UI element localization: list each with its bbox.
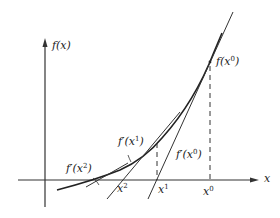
label-x2: x2 bbox=[117, 183, 128, 194]
x-axis-label: x bbox=[264, 173, 270, 184]
label-fp-x0: f′(x0) bbox=[176, 149, 202, 160]
tangent-line-x0 bbox=[148, 12, 233, 199]
leader-fp-x1 bbox=[128, 155, 131, 162]
label-fp-x1: f′(x1) bbox=[118, 136, 144, 147]
y-axis-arrow-icon bbox=[43, 38, 48, 47]
y-axis-label: f(x) bbox=[52, 40, 71, 51]
label-fp-x2: f′(x2) bbox=[66, 163, 92, 174]
label-f-x0: f(x0) bbox=[216, 56, 239, 67]
x-axis-arrow-icon bbox=[250, 178, 259, 183]
label-x1: x1 bbox=[158, 184, 169, 195]
diagram-canvas bbox=[0, 0, 280, 218]
newton-method-diagram: f(x) x f(x0) f′(x0) f′(x1) f′(x2) x0 x1 … bbox=[0, 0, 280, 218]
label-x0: x0 bbox=[203, 186, 214, 197]
point-f-x0 bbox=[209, 61, 212, 64]
